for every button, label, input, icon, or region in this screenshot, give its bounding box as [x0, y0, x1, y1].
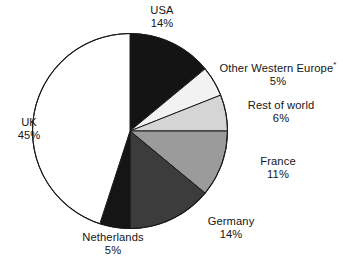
- pie-label-germany-name: Germany: [186, 215, 276, 228]
- pie-label-rest-of-world: Rest of world 6%: [226, 99, 336, 126]
- pie-slice-group: [32, 34, 227, 229]
- pie-label-rest-of-world-name: Rest of world: [226, 99, 336, 112]
- pie-label-usa: USA 14%: [131, 4, 193, 31]
- pie-label-france-value: 11%: [228, 168, 328, 181]
- pie-label-netherlands-value: 5%: [59, 244, 167, 257]
- pie-label-rest-of-world-value: 6%: [226, 112, 336, 125]
- pie-chart: USA 14% Other Western Europe* 5% Rest of…: [0, 0, 343, 265]
- pie-label-netherlands-name: Netherlands: [59, 231, 167, 244]
- pie-label-france: France 11%: [228, 155, 328, 182]
- pie-label-uk-name: UK: [2, 116, 56, 129]
- pie-label-other-western-europe-value: 5%: [213, 75, 343, 88]
- pie-label-germany: Germany 14%: [186, 215, 276, 242]
- pie-label-other-western-europe-name: Other Western Europe*: [213, 62, 343, 75]
- pie-label-uk-value: 45%: [2, 129, 56, 142]
- footnote-marker-icon: *: [333, 60, 336, 69]
- pie-label-france-name: France: [228, 155, 328, 168]
- pie-label-germany-value: 14%: [186, 228, 276, 241]
- pie-label-usa-value: 14%: [131, 17, 193, 30]
- pie-label-uk: UK 45%: [2, 116, 56, 143]
- pie-label-netherlands: Netherlands 5%: [59, 231, 167, 258]
- pie-label-usa-name: USA: [131, 4, 193, 17]
- pie-label-other-western-europe: Other Western Europe* 5%: [213, 62, 343, 89]
